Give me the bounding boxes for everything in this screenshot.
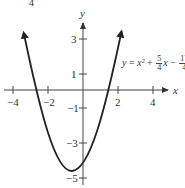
x-tick-label: −4 xyxy=(7,96,19,108)
fraction-5-4: 54 xyxy=(156,55,162,72)
y-tick-label: −5 xyxy=(66,172,78,184)
y-tick-label: 1 xyxy=(71,68,77,80)
equation-label: y = x² + 54x − 174 xyxy=(122,55,185,72)
x-tick-label: 2 xyxy=(115,96,121,108)
x-tick-label: 4 xyxy=(150,96,156,108)
x-axis-label: x xyxy=(172,84,178,96)
fraction-17-4: 174 xyxy=(179,55,185,72)
y-tick-label: −3 xyxy=(66,137,78,149)
x-tick-label: −2 xyxy=(43,96,55,108)
y-axis-label: y xyxy=(79,7,85,19)
y-tick-label: −1 xyxy=(67,102,79,114)
y-tick-label: 3 xyxy=(71,33,77,45)
parabola-chart: −4 −2 2 4 3 1 −1 −3 −5 x y xyxy=(0,0,185,188)
